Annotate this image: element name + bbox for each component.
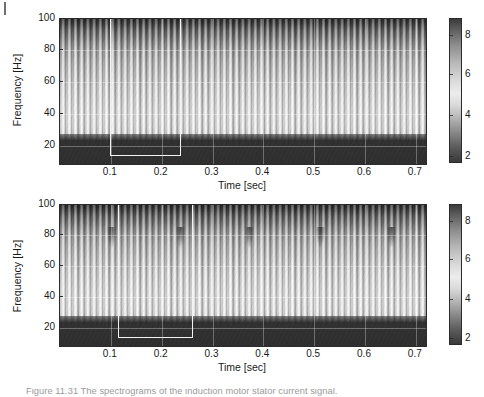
y-axis-label-top: Frequency [Hz] <box>11 45 23 135</box>
y-tickmark-20-bottom <box>59 327 63 328</box>
panel-bottom: Frequency [Hz] <box>0 186 484 382</box>
figure-caption: Figure 11.31 The spectrograms of the ind… <box>26 388 466 397</box>
x-ticklabel-03-bottom: 0.3 <box>205 349 219 359</box>
y-ticklabel-100: 100 <box>38 13 55 23</box>
y-tickmark-40-bottom <box>59 296 63 297</box>
y-ticklabel-20-bottom: 20 <box>44 322 55 332</box>
y-ticklabel-40-bottom: 40 <box>44 291 55 301</box>
colorbar-ticklabel-2-top: 2 <box>465 151 471 161</box>
x-ticklabel-05-bottom: 0.5 <box>306 349 320 359</box>
y-ticklabel-80: 80 <box>44 44 55 54</box>
x-ticklabel-07-bottom: 0.7 <box>408 349 422 359</box>
y-tickmark-100-bottom <box>59 204 63 205</box>
colorbar-ticklabel-4-bottom: 4 <box>465 294 471 304</box>
y-ticklabel-60: 60 <box>44 76 55 86</box>
y-ticklabel-60-bottom: 60 <box>44 260 55 270</box>
colorbar-bottom: 8 6 4 2 <box>449 204 462 345</box>
y-ticklabel-80-bottom: 80 <box>44 229 55 239</box>
colorbar-tickmark-6-bottom <box>450 259 453 260</box>
x-ticklabel-01: 0.1 <box>103 167 117 177</box>
x-ticklabel-06-bottom: 0.6 <box>357 349 371 359</box>
colorbar-ticklabel-6-top: 6 <box>465 69 471 79</box>
x-ticklabel-02-bottom: 0.2 <box>154 349 168 359</box>
y-ticklabel-20: 20 <box>44 140 55 150</box>
colorbar-ticklabel-4-top: 4 <box>465 110 471 120</box>
y-tickmark-60 <box>59 81 63 82</box>
x-ticklabel-01-bottom: 0.1 <box>103 349 117 359</box>
colorbar-tickmark-4-top <box>450 115 453 116</box>
y-axis-bottom: 100 80 60 40 20 0.1 0.2 0.3 0.4 0.5 0.6 … <box>59 204 425 345</box>
colorbar-tickmark-8-top <box>450 35 453 36</box>
x-ticklabel-06: 0.6 <box>357 167 371 177</box>
y-tickmark-80-bottom <box>59 234 63 235</box>
x-ticklabel-04-bottom: 0.4 <box>255 349 269 359</box>
colorbar-ticklabel-6-bottom: 6 <box>465 254 471 264</box>
colorbar-ticklabel-8-bottom: 8 <box>465 216 471 226</box>
y-axis-top: 100 80 60 40 20 0.1 0.2 0.3 0.4 0.5 0.6 … <box>59 18 425 163</box>
x-ticklabel-04: 0.4 <box>255 167 269 177</box>
figure-caption-text: Figure 11.31 The spectrograms of the ind… <box>26 388 466 396</box>
colorbar-ticklabel-8-top: 8 <box>465 30 471 40</box>
x-ticklabel-05: 0.5 <box>306 167 320 177</box>
y-ticklabel-100-bottom: 100 <box>38 199 55 209</box>
colorbar-ticklabel-2-bottom: 2 <box>465 333 471 343</box>
x-axis-label-bottom: Time [sec] <box>59 361 425 373</box>
y-tickmark-20 <box>59 145 63 146</box>
y-tickmark-60-bottom <box>59 265 63 266</box>
x-ticklabel-02: 0.2 <box>154 167 168 177</box>
panel-top: Frequency [Hz] 100 <box>0 0 484 196</box>
y-tickmark-40 <box>59 113 63 114</box>
colorbar-tickmark-2-bottom <box>450 338 453 339</box>
y-tickmark-80 <box>59 49 63 50</box>
y-ticklabel-40: 40 <box>44 108 55 118</box>
x-ticklabel-07: 0.7 <box>408 167 422 177</box>
x-ticklabel-03: 0.3 <box>205 167 219 177</box>
colorbar-tickmark-8-bottom <box>450 221 453 222</box>
colorbar-tickmark-6-top <box>450 74 453 75</box>
y-axis-label-bottom: Frequency [Hz] <box>11 231 23 321</box>
colorbar-top: 8 6 4 2 <box>449 18 462 163</box>
figure-page: Frequency [Hz] 100 <box>0 0 484 397</box>
y-tickmark-100 <box>59 18 63 19</box>
colorbar-tickmark-2-top <box>450 156 453 157</box>
colorbar-tickmark-4-bottom <box>450 299 453 300</box>
